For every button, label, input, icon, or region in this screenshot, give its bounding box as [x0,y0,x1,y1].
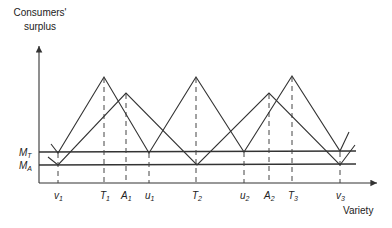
tick-v3: v3 [336,190,345,202]
consumer-surplus-diagram: Consumers' surplus Variety MT MA v1 T1 A… [0,0,392,228]
y-axis-label-line1: Consumers' [13,7,66,18]
tick-v1: v1 [54,190,63,202]
tick-t1: T1 [100,190,110,202]
tick-a1: A1 [120,190,132,202]
tick-t2: T2 [192,190,202,202]
tick-u2: u2 [240,190,250,202]
tick-a2: A2 [263,190,275,202]
mt-label: MT [19,147,32,159]
t-surplus-curve [51,76,349,153]
tick-t3: T3 [288,190,298,202]
y-axis-label-line2: surplus [24,21,56,32]
mt-level-line [39,151,356,152]
a-surplus-curve [48,93,355,165]
ma-label: MA [19,160,32,172]
tick-u1: u1 [145,190,155,202]
x-axis-label: Variety [343,205,373,216]
